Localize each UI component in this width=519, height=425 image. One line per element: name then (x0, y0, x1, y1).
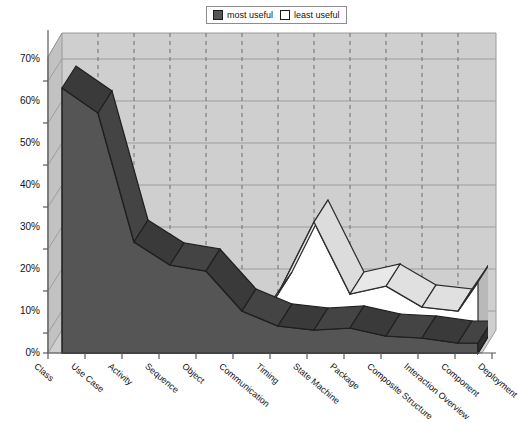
plot-left-wall (48, 33, 62, 353)
y-axis-tickmarks (43, 81, 48, 353)
x-axis-tickmarks (48, 353, 492, 359)
